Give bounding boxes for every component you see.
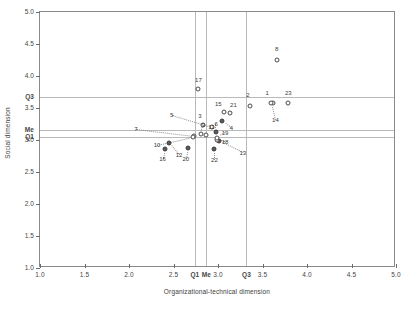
data-point-label: 19 xyxy=(222,130,229,136)
data-point xyxy=(214,130,219,135)
x-axis-tick-label: 4.0 xyxy=(302,272,311,279)
x-axis-tick-label: 2.5 xyxy=(169,272,178,279)
x-axis-title: Organizational-technical dimension xyxy=(39,288,395,296)
y-axis-tick xyxy=(36,204,40,205)
y-axis-tick-label: 3.5 xyxy=(25,105,34,112)
data-point xyxy=(199,131,204,136)
x-quartile-gridline xyxy=(246,12,247,266)
y-axis-tick xyxy=(36,44,40,45)
data-point xyxy=(228,111,233,116)
data-point-label: 17 xyxy=(195,77,202,83)
x-axis-tick xyxy=(307,264,308,268)
data-point xyxy=(204,132,209,137)
y-axis-tick-label: 5.0 xyxy=(25,9,34,16)
y-axis-tick-label: 1.0 xyxy=(25,265,34,272)
plot-area: 1.01.52.02.53.03.54.04.55.01.01.52.02.53… xyxy=(39,11,395,267)
data-point-label: 5 xyxy=(170,112,173,118)
x-axis-tick xyxy=(263,264,264,268)
x-axis-tick-label: 1.5 xyxy=(80,272,89,279)
y-quartile-gridline xyxy=(40,97,394,98)
data-point xyxy=(222,110,227,115)
x-axis-tick-label: 2.0 xyxy=(124,272,133,279)
y-axis-tick xyxy=(36,108,40,109)
x-axis-tick xyxy=(85,264,86,268)
data-point-label: 9 xyxy=(201,122,204,128)
data-point xyxy=(212,146,217,151)
y-axis-title: Social dimension xyxy=(4,73,12,193)
data-point xyxy=(215,136,220,141)
y-axis-tick xyxy=(36,268,40,269)
x-quartile-gridline xyxy=(195,12,196,266)
x-axis-tick xyxy=(396,264,397,268)
y-axis-tick xyxy=(36,172,40,173)
data-point-label: 6 xyxy=(215,121,218,127)
data-point-label: 20 xyxy=(182,156,189,162)
data-point-label: 10 xyxy=(154,142,161,148)
x-axis-tick-label: 4.5 xyxy=(347,272,356,279)
y-axis-tick xyxy=(36,76,40,77)
data-point xyxy=(196,86,201,91)
data-point xyxy=(167,141,172,146)
y-quartile-label: Q3 xyxy=(25,94,34,101)
data-point xyxy=(220,118,225,123)
y-axis-tick-label: 2.5 xyxy=(25,169,34,176)
data-point xyxy=(162,146,167,151)
y-quartile-label: Me xyxy=(25,127,34,134)
x-axis-tick xyxy=(174,264,175,268)
x-axis-tick xyxy=(129,264,130,268)
data-point-label: 1 xyxy=(266,90,269,96)
data-point-label: 18 xyxy=(222,139,229,145)
data-point xyxy=(274,58,279,63)
data-point-label: 16 xyxy=(159,156,166,162)
data-point-label: 23 xyxy=(285,90,292,96)
x-axis-tick xyxy=(352,264,353,268)
data-point xyxy=(185,145,190,150)
y-axis-tick-label: 4.0 xyxy=(25,73,34,80)
x-quartile-label: Me xyxy=(202,272,211,279)
data-point-label: 21 xyxy=(230,102,237,108)
y-axis-tick-label: 4.5 xyxy=(25,41,34,48)
data-point-label: 11 xyxy=(208,124,214,130)
y-axis-tick xyxy=(36,140,40,141)
label-leader-line xyxy=(157,138,189,146)
x-axis-tick-label: 3.0 xyxy=(213,272,222,279)
x-axis-tick-label: 3.5 xyxy=(258,272,267,279)
x-quartile-label: Q3 xyxy=(242,272,251,279)
y-axis-tick-label: 1.5 xyxy=(25,233,34,240)
x-axis-tick-label: 1.0 xyxy=(35,272,44,279)
data-point-label: 22 xyxy=(211,157,218,163)
data-point xyxy=(191,134,196,139)
data-point-label: 2 xyxy=(246,92,249,98)
x-axis-tick-label: 5.0 xyxy=(391,272,400,279)
data-point xyxy=(248,104,253,109)
data-point-label: 12 xyxy=(176,152,183,158)
x-axis-tick xyxy=(40,264,41,268)
y-quartile-label: Q1 xyxy=(25,134,34,141)
y-axis-tick xyxy=(36,236,40,237)
data-point-label: 7 xyxy=(134,126,137,132)
data-point xyxy=(269,100,274,105)
scatter-plot-figure: 1.01.52.02.53.03.54.04.55.01.01.52.02.53… xyxy=(0,0,412,316)
x-quartile-gridline xyxy=(206,12,207,266)
y-axis-tick xyxy=(36,12,40,13)
x-quartile-label: Q1 xyxy=(190,272,199,279)
data-point-label: 13 xyxy=(240,150,247,156)
data-point xyxy=(286,100,291,105)
data-point-label: 15 xyxy=(215,101,222,107)
data-point-label: 8 xyxy=(275,46,278,52)
data-point-label: 4 xyxy=(230,125,233,131)
y-axis-tick-label: 2.0 xyxy=(25,201,34,208)
x-axis-tick xyxy=(218,264,219,268)
data-point-label: 14 xyxy=(272,117,279,123)
data-point-label: 3 xyxy=(198,113,201,119)
